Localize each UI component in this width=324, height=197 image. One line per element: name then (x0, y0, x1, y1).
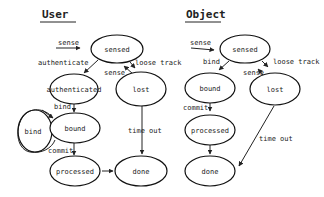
svg-text:sensed: sensed (232, 46, 257, 54)
svg-text:lost: lost (267, 86, 284, 94)
label-commit: commit (183, 104, 208, 112)
edge-sense-in (191, 48, 214, 50)
user-diagram-title: User (42, 8, 69, 21)
label-bind: bind (54, 103, 71, 111)
svg-text:lost: lost (133, 86, 150, 94)
label-authenticate: authenticate (38, 59, 89, 67)
svg-text:processed: processed (56, 168, 94, 176)
svg-text:done: done (133, 168, 150, 176)
label-loose-track: loose track (135, 59, 182, 67)
state-lost: lost (250, 73, 300, 105)
svg-text:bound: bound (64, 125, 85, 133)
label-time-out: time out (259, 135, 293, 143)
svg-text:done: done (202, 168, 219, 176)
svg-text:processed: processed (191, 127, 229, 135)
label-loose-track: loose track (273, 58, 320, 66)
label-sense-in: sense (58, 39, 79, 47)
state-bound: bound (185, 73, 235, 103)
state-done: done (115, 156, 167, 186)
label-commit: commit (48, 147, 73, 155)
label-sense-back: sense (243, 69, 264, 77)
object-diagram: Object sensed bound lost processed don (183, 8, 320, 186)
label-time-out: time out (128, 127, 162, 135)
label-sense-in: sense (190, 39, 211, 47)
label-sense-back: sense (104, 69, 125, 77)
state-sensed: sensed (220, 35, 270, 63)
svg-text:sensed: sensed (104, 46, 129, 54)
state-lost: lost (116, 72, 166, 106)
object-diagram-title: Object (186, 8, 226, 21)
svg-text:bind: bind (25, 128, 42, 136)
svg-text:authenticated: authenticated (47, 86, 102, 94)
edge-bind (219, 61, 229, 70)
state-done: done (185, 156, 235, 186)
state-processed: processed (185, 115, 235, 145)
state-bind: bind (18, 110, 52, 152)
user-diagram: User sensed authenticated lost bind (18, 8, 182, 186)
state-authenticated: authenticated (47, 74, 102, 104)
state-bound: bound (50, 113, 100, 143)
edge-loose-track (262, 61, 268, 67)
state-diagrams: User sensed authenticated lost bind (0, 0, 324, 197)
label-bind: bind (203, 58, 220, 66)
svg-text:bound: bound (199, 85, 220, 93)
state-processed: processed (50, 156, 100, 186)
